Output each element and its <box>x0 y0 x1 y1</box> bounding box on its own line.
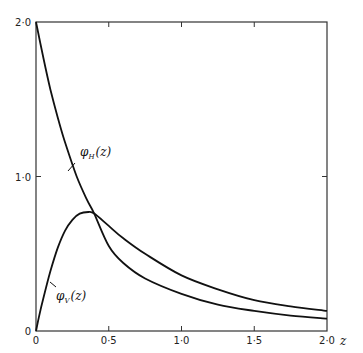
x-tick-label: 0·5 <box>101 335 117 346</box>
chart: 00·51·01·52·001·02·0 φH(z) φV(z) z <box>0 0 363 353</box>
y-tick-label: 1·0 <box>15 172 31 183</box>
x-tick-label: 0 <box>33 335 39 346</box>
plot-frame <box>36 22 327 331</box>
curve-phi-h <box>36 22 327 319</box>
x-tick-label: 2·0 <box>319 335 335 346</box>
y-tick-label: 2·0 <box>15 17 31 28</box>
axis-ticks <box>36 22 327 331</box>
curve-labels: φH(z) φV(z) <box>50 145 112 305</box>
curves <box>36 22 327 331</box>
y-tick-label: 0 <box>25 326 31 337</box>
phi-v-label: φV(z) <box>56 289 86 305</box>
x-tick-label: 1·5 <box>246 335 262 346</box>
x-tick-label: 1·0 <box>174 335 190 346</box>
curve-phi-v <box>36 212 327 331</box>
phi-v-leader-line <box>50 282 56 287</box>
phi-h-label: φH(z) <box>80 145 112 161</box>
x-axis-label: z <box>339 334 347 348</box>
